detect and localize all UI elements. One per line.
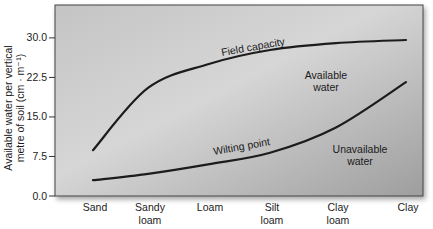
- available-water-label: Available: [305, 69, 348, 81]
- y-tick-label: 0.0: [32, 190, 47, 202]
- plot-area: [55, 5, 423, 196]
- x-axis: SandSandyloamLoamSiltloamClayloamClay: [83, 201, 420, 226]
- x-tick-label: Sandy: [135, 201, 166, 213]
- unavailable-water-label: water: [346, 155, 373, 167]
- x-tick-label: Loam: [197, 201, 224, 213]
- x-tick-label: loam: [261, 214, 284, 226]
- y-axis-label-line: Available water per vertical: [2, 45, 14, 170]
- y-tick-label: 22.5: [27, 71, 48, 83]
- y-tick-label: 7.5: [32, 150, 47, 162]
- soil-water-chart: 0.07.515.022.530.0 SandSandyloamLoamSilt…: [0, 0, 433, 229]
- y-axis-label-line: metre of soil (cm · m⁻¹): [14, 54, 26, 163]
- y-axis: 0.07.515.022.530.0: [27, 31, 55, 201]
- y-tick-label: 15.0: [27, 110, 48, 122]
- y-tick-label: 30.0: [27, 31, 48, 43]
- x-tick-label: Silt: [265, 201, 280, 213]
- available-water-label: water: [312, 81, 339, 93]
- y-axis-label: Available water per verticalmetre of soi…: [2, 45, 26, 170]
- x-tick-label: loam: [327, 214, 350, 226]
- unavailable-water-label: Unavailable: [333, 143, 388, 155]
- x-tick-label: Sand: [83, 201, 108, 213]
- x-tick-label: Clay: [327, 201, 349, 213]
- x-tick-label: Clay: [397, 201, 419, 213]
- x-tick-label: loam: [139, 214, 162, 226]
